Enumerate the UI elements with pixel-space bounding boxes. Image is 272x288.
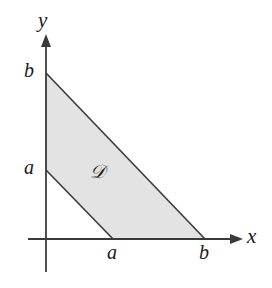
y-axis-tick-label-b: b — [24, 60, 34, 80]
diagram-canvas — [0, 0, 272, 288]
x-axis-tick-label-a: a — [107, 242, 117, 262]
y-axis-tick-label-a: a — [24, 157, 34, 177]
y-axis-arrowhead-icon — [41, 34, 51, 47]
x-axis-tick-label-b: b — [199, 242, 209, 262]
x-axis-label: x — [247, 226, 256, 247]
region-label-d: 𝒟 — [90, 162, 105, 181]
x-axis-arrowhead-icon — [230, 234, 243, 244]
y-axis-label: y — [38, 10, 47, 31]
region-diagram: y x b a a b 𝒟 — [0, 0, 272, 288]
